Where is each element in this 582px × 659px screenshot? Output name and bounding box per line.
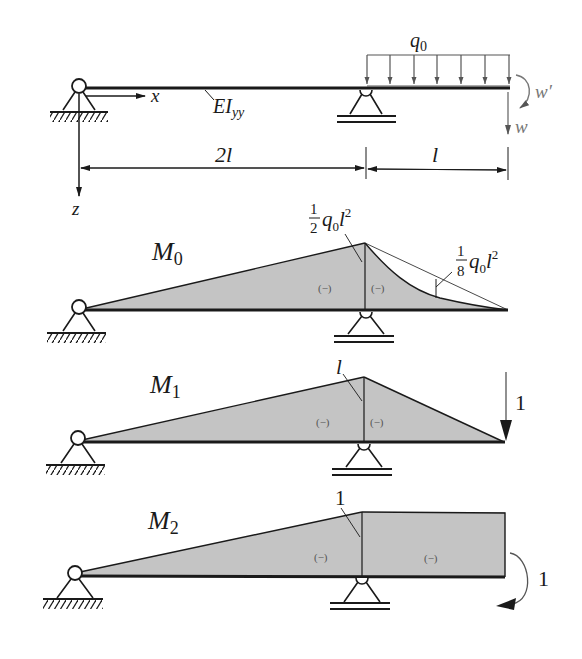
m1-peak-label: l [336, 355, 342, 379]
w-prime-label: w′ [535, 81, 553, 102]
m2-beam-line [80, 576, 505, 577]
unit-moment-arrow-icon [510, 553, 528, 604]
span-left-label: 2l [215, 142, 232, 167]
m0-sign-right: (−) [371, 282, 385, 295]
m0-sag-label: 1 8 q0l2 [456, 243, 498, 279]
span-right-label: l [432, 142, 438, 167]
load-label: q0 [410, 29, 427, 54]
z-axis-label: z [71, 198, 80, 219]
dimension-lines: 2l l [81, 142, 508, 180]
m1-sign-right: (−) [370, 416, 384, 429]
roller-support-icon [332, 444, 392, 475]
svg-text:1: 1 [310, 201, 318, 217]
svg-text:8: 8 [457, 263, 465, 279]
m1-title: M1 [149, 370, 181, 402]
m0-title: M0 [151, 237, 183, 269]
m2-diagram: M2 (−) (−) 1 1 [43, 486, 549, 610]
m2-peak-label: 1 [335, 486, 346, 510]
m2-title: M2 [147, 506, 179, 538]
loaded-beam: x z EIyy q0 w′ [50, 29, 553, 219]
m2-sign-right: (−) [424, 552, 438, 565]
m0-sign-left: (−) [318, 282, 332, 295]
roller-support-icon [330, 578, 390, 609]
svg-text:q0l2: q0l2 [322, 205, 351, 234]
w-label: w [515, 116, 528, 137]
m2-sign-left: (−) [314, 551, 328, 564]
rotation-arrow-icon [516, 75, 529, 108]
svg-text:2: 2 [310, 220, 318, 236]
svg-text:q0l2: q0l2 [469, 247, 498, 276]
svg-text:1: 1 [457, 243, 465, 259]
distributed-load: q0 [367, 29, 510, 86]
beam-moment-diagram: x z EIyy q0 w′ [0, 0, 582, 659]
x-axis-label: x [150, 85, 160, 106]
roller-support-icon [334, 312, 394, 342]
m1-sign-left: (−) [316, 416, 330, 429]
m1-force-label: 1 [515, 390, 526, 415]
stiffness-label: EIyy [212, 95, 245, 120]
m0-peak-label: 1 2 q0l2 [309, 201, 351, 236]
roller-support-icon [337, 90, 396, 122]
m2-moment-label: 1 [538, 566, 549, 591]
m0-diagram: M0 (−) (−) 1 2 q0l2 1 8 q0l2 [47, 201, 508, 343]
m1-diagram: M1 (−) (−) l 1 [46, 355, 526, 475]
